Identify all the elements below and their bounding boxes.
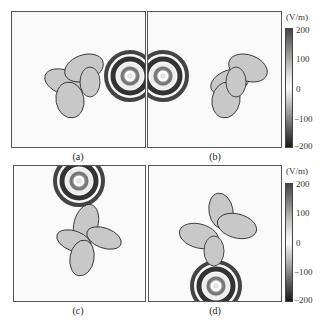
panel-c xyxy=(13,165,146,302)
colorbar-tick: −100 xyxy=(294,115,313,124)
colorbar-bottom xyxy=(285,183,293,302)
panel-a xyxy=(11,11,146,148)
panel-label-d: (d) xyxy=(200,305,230,316)
field-map-b xyxy=(148,12,282,148)
colorbar-tick: −200 xyxy=(294,296,313,305)
panel-label-c: (c) xyxy=(63,305,93,316)
colorbar-unit-top: (V/m) xyxy=(286,12,308,22)
panel-b xyxy=(147,11,282,148)
colorbar-top xyxy=(285,28,293,148)
colorbar-tick: −100 xyxy=(294,268,313,277)
colorbar-tick: 0 xyxy=(296,85,301,94)
colorbar-tick: 100 xyxy=(296,55,310,64)
colorbar-tick: 0 xyxy=(296,239,301,248)
colorbar-tick: 200 xyxy=(296,180,310,189)
panel-label-b: (b) xyxy=(200,151,230,162)
colorbar-unit-bottom: (V/m) xyxy=(286,166,308,176)
field-map-a xyxy=(12,12,146,148)
field-map-c xyxy=(14,166,146,302)
colorbar-tick: 100 xyxy=(296,209,310,218)
colorbar-tick: −200 xyxy=(294,142,313,151)
colorbar-tick: 200 xyxy=(296,26,310,35)
panel-label-a: (a) xyxy=(63,151,93,162)
field-map-d xyxy=(149,166,282,302)
panel-d xyxy=(148,165,282,302)
